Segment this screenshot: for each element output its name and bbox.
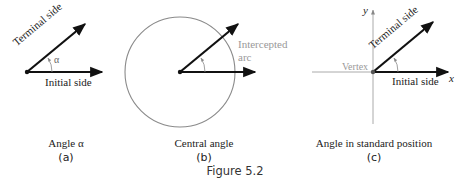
angle-arc xyxy=(201,58,205,72)
panel-a-title: Angle α xyxy=(48,137,83,149)
angle-arc xyxy=(394,58,398,72)
initial-side-label: Initial side xyxy=(392,75,439,87)
panel-b-title: Central angle xyxy=(175,137,234,149)
panel-c-graphic xyxy=(312,10,448,124)
vertex-dot xyxy=(371,70,375,74)
figure-caption: Figure 5.2 xyxy=(206,164,263,178)
initial-side-label: Initial side xyxy=(45,76,92,88)
alpha-label: α xyxy=(54,54,59,65)
vertex-dot xyxy=(25,70,29,74)
y-axis-label: y xyxy=(363,4,368,16)
vertex-dot xyxy=(178,70,182,74)
panel-c-sub: (c) xyxy=(367,151,382,164)
x-axis-label: x xyxy=(449,72,454,84)
angle-arc xyxy=(48,58,52,72)
panel-a-sub: (a) xyxy=(58,151,73,164)
panel-c-title: Angle in standard position xyxy=(316,137,432,149)
panel-b-graphic xyxy=(125,17,255,127)
panel-b-sub: (b) xyxy=(196,151,212,164)
vertex-label: Vertex xyxy=(342,61,368,72)
intercepted-arc-label-line1: Intercepted xyxy=(238,38,287,50)
intercepted-arc-label-line2: arc xyxy=(238,51,251,63)
